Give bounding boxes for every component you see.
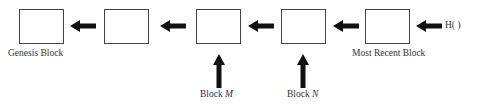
genesis-block-label: Genesis Block: [8, 48, 63, 58]
block-n-label: Block N: [287, 89, 318, 99]
up-arrow-icon: [297, 54, 309, 88]
most-recent-block-box: [365, 9, 410, 44]
left-arrow-icon: [248, 20, 274, 32]
block-n-variable: N: [312, 89, 318, 99]
genesis-block-box: [19, 9, 64, 44]
block-n-box: [281, 9, 326, 44]
block-m-variable: M: [225, 89, 233, 99]
block-m-box: [196, 9, 241, 44]
left-arrow-icon: [70, 20, 96, 32]
block-2-box: [104, 9, 149, 44]
block-m-prefix: Block: [200, 89, 225, 99]
block-n-prefix: Block: [287, 89, 312, 99]
head-hash-label: H( ): [445, 20, 461, 30]
block-m-label: Block M: [200, 89, 233, 99]
most-recent-block-label: Most Recent Block: [352, 48, 425, 58]
left-arrow-icon: [416, 20, 442, 32]
up-arrow-icon: [213, 54, 225, 88]
left-arrow-icon: [333, 20, 359, 32]
left-arrow-icon: [160, 20, 186, 32]
